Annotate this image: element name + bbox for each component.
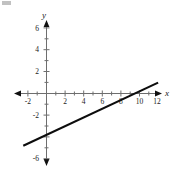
y-axis-label: y <box>41 10 46 20</box>
x-tick-label-10: 10 <box>136 97 144 106</box>
y-tick-label-neg6: -6 <box>33 154 39 163</box>
x-axis-label: x <box>164 88 169 98</box>
x-tick-label-6: 6 <box>100 97 104 106</box>
x-tick-label-2: 2 <box>63 97 67 106</box>
y-tick-label-4: 4 <box>35 45 39 54</box>
x-tick-label-4: 4 <box>82 97 86 106</box>
corner-artifact-mark <box>2 1 11 5</box>
y-tick-label-2: 2 <box>35 67 39 76</box>
y-tick-label-6: 6 <box>35 24 39 33</box>
x-tick-label-12: 12 <box>153 97 161 106</box>
y-tick-label-neg2: -2 <box>33 111 39 120</box>
x-tick-label-neg2: -2 <box>25 97 31 106</box>
coordinate-plane-graph: -2 2 4 6 8 10 12 6 4 2 -2 -6 x y <box>0 0 178 173</box>
